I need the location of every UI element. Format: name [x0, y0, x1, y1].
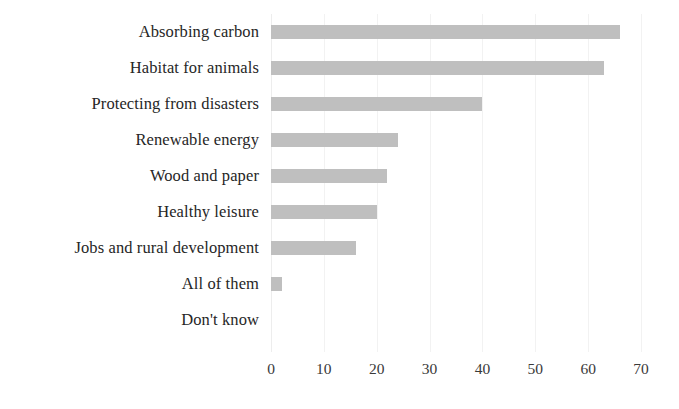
category-label: Don't know	[9, 302, 259, 338]
bar-row	[271, 230, 641, 266]
bar	[271, 277, 282, 291]
bar	[271, 205, 377, 219]
gridline-70	[641, 14, 642, 352]
x-tick-label: 40	[475, 358, 491, 380]
bar-row	[271, 266, 641, 302]
x-tick-label: 10	[316, 358, 332, 380]
bar	[271, 25, 620, 39]
category-label: All of them	[9, 266, 259, 302]
bar-row	[271, 302, 641, 338]
x-tick-label: 70	[633, 358, 649, 380]
bar-row	[271, 194, 641, 230]
x-tick-label: 60	[580, 358, 596, 380]
x-tick-label: 50	[528, 358, 544, 380]
category-label: Absorbing carbon	[9, 14, 259, 50]
bar-row	[271, 86, 641, 122]
category-label: Healthy leisure	[9, 194, 259, 230]
plot-area	[271, 14, 641, 352]
bar	[271, 61, 604, 75]
category-label: Renewable energy	[9, 122, 259, 158]
bar	[271, 97, 482, 111]
bar-row	[271, 50, 641, 86]
bar-row	[271, 122, 641, 158]
x-tick-label: 30	[422, 358, 438, 380]
bar	[271, 169, 387, 183]
bar-row	[271, 158, 641, 194]
category-label: Jobs and rural development	[9, 230, 259, 266]
category-label: Wood and paper	[9, 158, 259, 194]
category-label: Habitat for animals	[9, 50, 259, 86]
category-axis-labels: Absorbing carbonHabitat for animalsProte…	[4, 14, 259, 352]
x-tick-label: 20	[369, 358, 385, 380]
x-axis-tick-labels: 010203040506070	[271, 358, 641, 386]
x-tick-label: 0	[267, 358, 275, 380]
bar-chart: Absorbing carbonHabitat for animalsProte…	[0, 0, 679, 409]
category-label: Protecting from disasters	[9, 86, 259, 122]
bar-row	[271, 14, 641, 50]
bar	[271, 241, 356, 255]
bar	[271, 133, 398, 147]
